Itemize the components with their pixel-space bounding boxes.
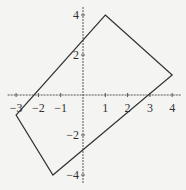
x-tick-label: 1: [102, 101, 108, 115]
y-tick-label: −4: [66, 168, 79, 182]
chart-canvas: −3−2−1123442−2−4: [0, 0, 186, 190]
x-tick-label: −1: [54, 101, 67, 115]
x-tick-label: −2: [32, 101, 45, 115]
x-tick-label: 3: [147, 101, 153, 115]
y-tick-label: −2: [66, 128, 79, 142]
x-tick-label: −3: [10, 101, 23, 115]
y-tick-label: 4: [73, 8, 79, 22]
x-tick-label: 4: [169, 101, 175, 115]
